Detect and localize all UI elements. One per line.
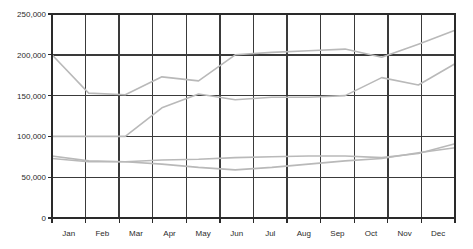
x-axis-tick-label: Mar [129, 229, 143, 238]
chart-canvas: 050,000100,000150,000200,000250,000 JanF… [0, 0, 473, 249]
x-axis-tick-label: Apr [163, 229, 176, 238]
x-axis-tick-label: Sep [330, 229, 345, 238]
x-axis-tick-label: Feb [95, 229, 109, 238]
x-axis-tick-label: Oct [365, 229, 378, 238]
y-axis-tick-label: 200,000 [17, 51, 46, 60]
y-axis-tick-label: 150,000 [17, 92, 46, 101]
x-axis-tick-label: Nov [398, 229, 412, 238]
x-axis-tick-label: Jun [230, 229, 243, 238]
x-axis-tick-label: May [196, 229, 211, 238]
y-axis-tick-label: 50,000 [22, 173, 47, 182]
y-axis-tick-label: 0 [42, 214, 47, 223]
y-axis-labels: 050,000100,000150,000200,000250,000 [17, 10, 52, 223]
line-chart: 050,000100,000150,000200,000250,000 JanF… [0, 0, 473, 249]
x-axis-tick-label: Jul [265, 229, 275, 238]
x-axis-tick-label: Aug [297, 229, 311, 238]
y-axis-tick-label: 100,000 [17, 132, 46, 141]
y-axis-tick-label: 250,000 [17, 10, 46, 19]
x-axis-tick-label: Jan [62, 229, 75, 238]
x-axis-labels: JanFebMarAprMayJunJulAugSepOctNovDec [52, 218, 455, 238]
x-axis-tick-label: Dec [431, 229, 445, 238]
